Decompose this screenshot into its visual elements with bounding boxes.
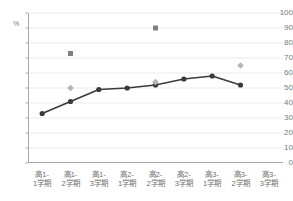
y-axis-tick-label: 30	[269, 114, 293, 122]
y-axis-tick-label: 100	[269, 9, 293, 17]
chart-container: % 1009080706050403020100 高1-1学期高1-2学期高1-…	[0, 0, 293, 201]
x-axis-tick-label-line1: 高3-	[252, 170, 286, 179]
y-axis-tick-label: 70	[269, 54, 293, 62]
y-axis-tick-label: 40	[269, 99, 293, 107]
y-axis-tick-label: 10	[269, 144, 293, 152]
y-axis-tick-label: 80	[269, 39, 293, 47]
y-axis-tick-label: 50	[269, 84, 293, 92]
y-axis-tick-label: 90	[269, 24, 293, 32]
x-axis-tick-label: 高3-3学期	[252, 170, 286, 188]
y-axis-tick-label: 0	[269, 159, 293, 167]
y-axis-tick-label: 20	[269, 129, 293, 137]
plot-area	[28, 13, 283, 163]
x-axis-tick-label-line2: 3学期	[252, 179, 286, 188]
y-axis-tick-label: 60	[269, 69, 293, 77]
y-axis-unit-label: %	[13, 20, 19, 27]
